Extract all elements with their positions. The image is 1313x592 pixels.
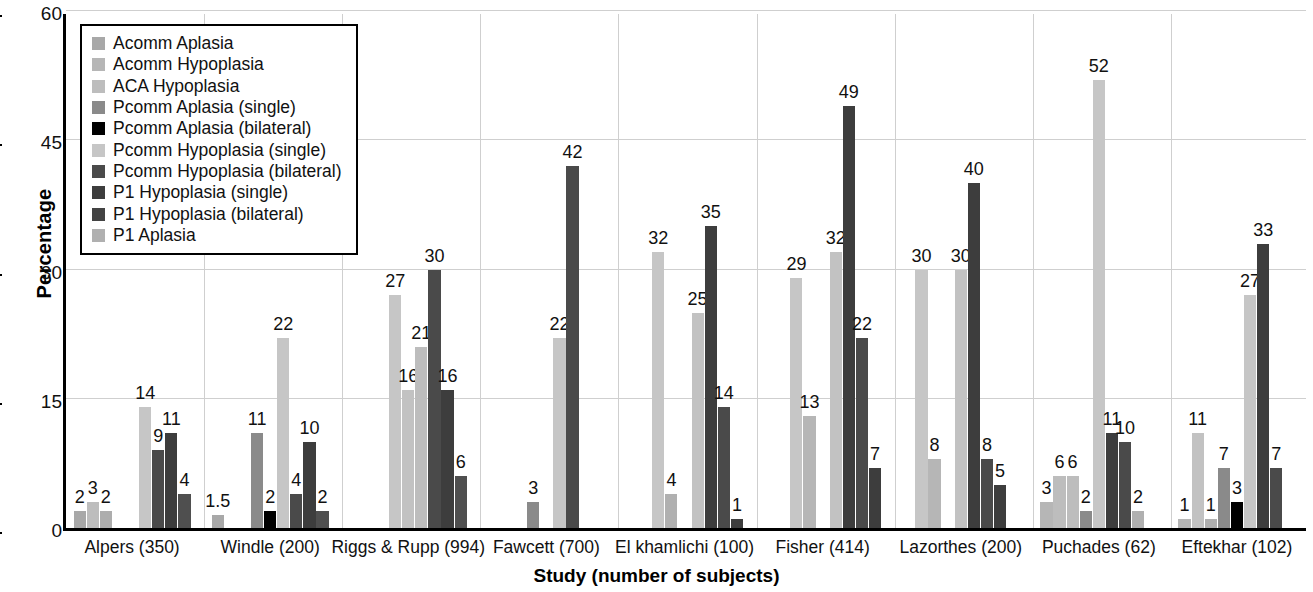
bar-value-label: 49	[839, 82, 859, 103]
bar-value-label: 6	[456, 452, 466, 473]
bar	[178, 494, 190, 528]
bar	[1257, 244, 1269, 528]
bar	[1080, 511, 1092, 528]
bar	[665, 494, 677, 528]
legend-label: P1 Hypoplasia (bilateral)	[113, 204, 304, 225]
bar	[1093, 80, 1105, 528]
y-axis-tick-label: 15	[2, 391, 62, 413]
y-axis-tick-mark	[0, 274, 2, 276]
bar-value-label: 3	[88, 478, 98, 499]
legend-swatch-icon	[92, 37, 105, 50]
bar-value-label: 1	[1206, 495, 1216, 516]
legend-swatch-icon	[92, 186, 105, 199]
bar	[251, 433, 263, 528]
bar	[165, 433, 177, 528]
bar	[212, 515, 224, 528]
bar-value-label: 11	[162, 409, 181, 430]
legend-swatch-icon	[92, 165, 105, 178]
bar-value-label: 35	[701, 202, 721, 223]
x-axis-group-label: Fisher (414)	[775, 537, 869, 558]
y-axis-tick-mark	[0, 15, 2, 17]
bar-value-label: 40	[964, 159, 984, 180]
bar	[981, 459, 993, 528]
bar-value-label: 2	[265, 487, 275, 508]
x-axis-group-label: Lazorthes (200)	[899, 537, 1022, 558]
bar-value-label: 14	[135, 383, 155, 404]
bar-value-label: 2	[318, 487, 328, 508]
legend-item: ACA Hypoplasia	[92, 76, 342, 97]
bar	[428, 270, 440, 529]
bar	[441, 390, 453, 528]
bar	[402, 390, 414, 528]
bar	[1040, 502, 1052, 528]
legend-label: Acomm Aplasia	[113, 33, 234, 54]
legend-swatch-icon	[92, 229, 105, 242]
y-axis-tick-mark	[0, 532, 2, 534]
bar-value-label: 22	[852, 314, 872, 335]
gridline-horizontal	[66, 10, 1306, 11]
bar-value-label: 10	[1115, 418, 1135, 439]
legend-item: P1 Hypoplasia (single)	[92, 182, 342, 203]
bar	[915, 270, 927, 529]
x-axis-group-label: Riggs & Rupp (994)	[331, 537, 485, 558]
bar	[856, 338, 868, 528]
bar-value-label: 16	[438, 366, 458, 387]
bar-value-label: 13	[799, 392, 819, 413]
y-axis-tick-label: 45	[2, 132, 62, 154]
bar-value-label: 33	[1253, 220, 1273, 241]
x-axis-group-label: Fawcett (700)	[493, 537, 600, 558]
bar-value-label: 6	[1068, 452, 1078, 473]
legend-item: Acomm Aplasia	[92, 33, 342, 54]
bar-value-label: 5	[995, 461, 1005, 482]
bar	[1067, 476, 1079, 528]
bar	[731, 519, 743, 528]
bar-value-label: 42	[563, 142, 583, 163]
bar	[100, 511, 112, 528]
legend-label: P1 Aplasia	[113, 225, 196, 246]
bar-value-label: 7	[1219, 444, 1229, 465]
bar-value-label: 10	[299, 418, 319, 439]
x-axis-group-label: Eftekhar (102)	[1181, 537, 1292, 558]
bar-value-label: 4	[179, 470, 189, 491]
bar-value-label: 3	[528, 478, 538, 499]
legend-label: Acomm Hypoplasia	[113, 54, 264, 75]
bar	[566, 166, 578, 528]
legend-swatch-icon	[92, 80, 105, 93]
bar-value-label: 11	[248, 409, 267, 430]
legend-item: Acomm Hypoplasia	[92, 54, 342, 75]
bar	[830, 252, 842, 528]
legend-item: Pcomm Hypoplasia (single)	[92, 139, 342, 160]
bar-value-label: 14	[714, 383, 734, 404]
x-axis-group-label: Puchades (62)	[1042, 537, 1156, 558]
bar	[1192, 433, 1204, 528]
x-axis-group-label: El khamlichi (100)	[615, 537, 754, 558]
bar-value-label: 27	[385, 271, 405, 292]
bar-value-label: 1	[732, 495, 742, 516]
y-axis-tick-label: 30	[2, 262, 62, 284]
chart-root: Percentage Study (number of subjects) 23…	[0, 0, 1313, 592]
bar	[1244, 295, 1256, 528]
bar-value-label: 30	[424, 246, 444, 267]
bar	[1106, 433, 1118, 528]
bar	[316, 511, 328, 528]
bar	[527, 502, 539, 528]
bar-value-label: 52	[1089, 56, 1109, 77]
bar-value-label: 2	[75, 487, 85, 508]
bar	[692, 313, 704, 528]
y-axis-tick-label: 60	[2, 3, 62, 25]
y-axis-tick-mark	[0, 403, 2, 405]
bar-value-label: 2	[1133, 487, 1143, 508]
legend-item: P1 Aplasia	[92, 225, 342, 246]
bar	[955, 270, 967, 529]
bar	[87, 502, 99, 528]
bar-value-label: 30	[911, 246, 931, 267]
bar-value-label: 7	[1271, 444, 1281, 465]
bar	[803, 416, 815, 528]
bar	[1218, 468, 1230, 528]
legend-item: Pcomm Hypoplasia (bilateral)	[92, 161, 342, 182]
bar	[139, 407, 151, 528]
bar-value-label: 7	[870, 444, 880, 465]
bar-value-label: 2	[101, 487, 111, 508]
bar-value-label: 4	[291, 470, 301, 491]
legend-item: P1 Hypoplasia (bilateral)	[92, 203, 342, 224]
